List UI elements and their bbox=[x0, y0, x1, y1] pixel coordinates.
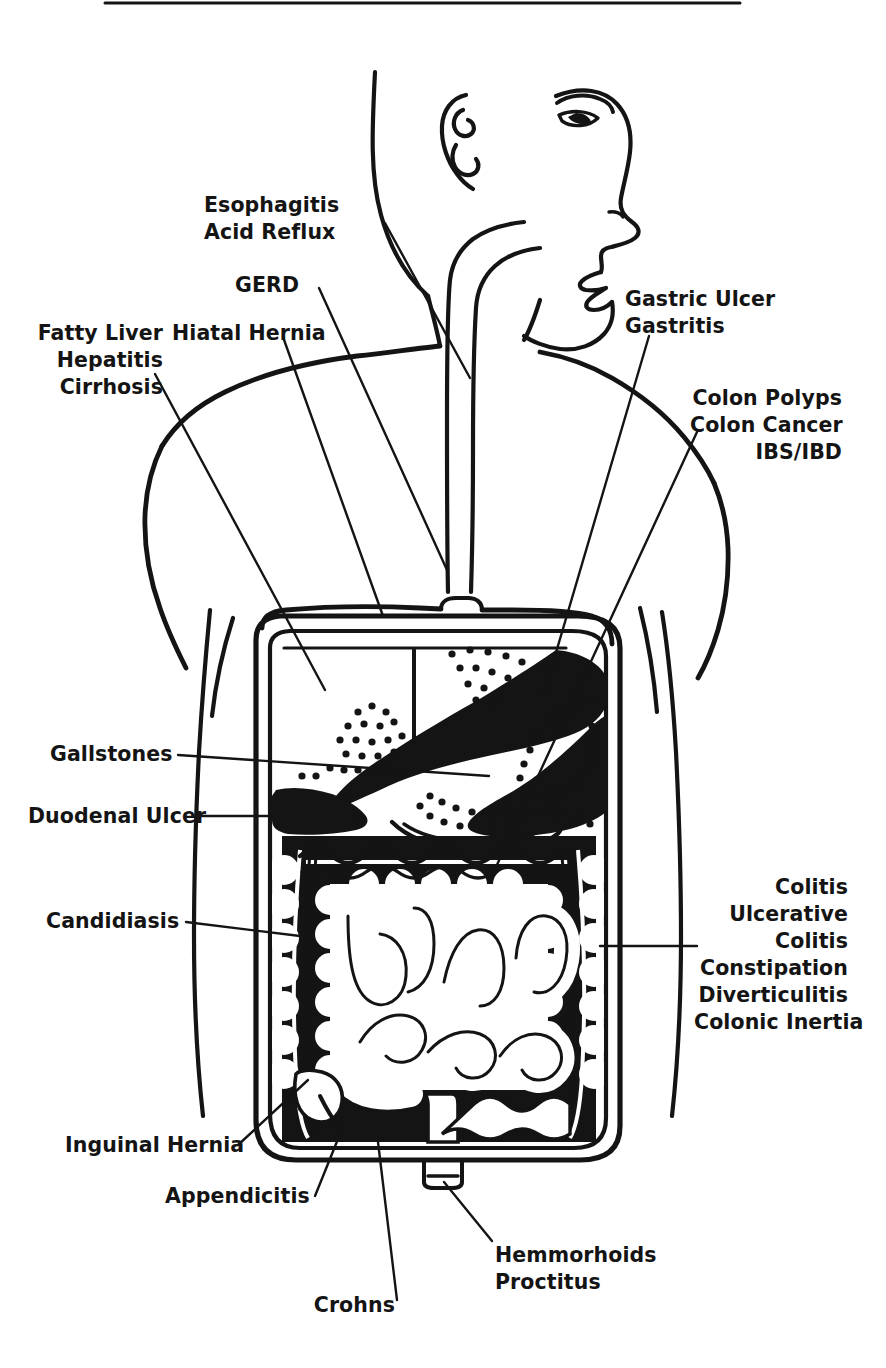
right-arm bbox=[698, 483, 728, 678]
neck-front bbox=[524, 300, 540, 340]
head-profile bbox=[373, 72, 428, 296]
label-duodenal-ulcer: Duodenal Ulcer bbox=[28, 803, 193, 830]
figure-canvas: Esophagitis Acid Reflux GERD Fatty Liver… bbox=[0, 0, 886, 1368]
nostril bbox=[609, 212, 623, 217]
lips bbox=[580, 272, 612, 310]
label-colitis-group: Colitis Ulcerative Colitis Constipation … bbox=[694, 874, 848, 1036]
label-crohns: Crohns bbox=[305, 1292, 395, 1319]
esophagus-hiatus bbox=[441, 598, 482, 610]
sigmoid-colon bbox=[426, 1094, 458, 1142]
label-appendicitis: Appendicitis bbox=[165, 1183, 305, 1210]
label-gastric-ulcer-gastritis: Gastric Ulcer Gastritis bbox=[625, 286, 775, 340]
leader-hiatal-hernia bbox=[283, 337, 383, 616]
label-hemmorhoids-proctitus: Hemmorhoids Proctitus bbox=[495, 1242, 657, 1296]
leader-hemmorhoids bbox=[444, 1182, 492, 1241]
leader-appendicitis bbox=[315, 1134, 340, 1196]
right-shoulder bbox=[540, 352, 714, 483]
left-arm bbox=[145, 446, 186, 668]
left-shoulder bbox=[162, 346, 440, 446]
left-arm-lower bbox=[194, 610, 210, 1116]
leader-fatty-liver bbox=[155, 374, 325, 690]
label-hiatal-hernia: Hiatal Hernia bbox=[172, 320, 326, 347]
label-colon-polyps-colon-cancer-ibs-ibd: Colon Polyps Colon Cancer IBS/IBD bbox=[690, 385, 842, 466]
leader-gerd bbox=[319, 288, 447, 570]
ear-lobe bbox=[452, 145, 478, 175]
label-inguinal-hernia: Inguinal Hernia bbox=[65, 1132, 230, 1159]
esophagus-right-wall bbox=[471, 248, 540, 592]
leader-crohns bbox=[378, 1142, 397, 1300]
rectum bbox=[424, 1160, 462, 1188]
label-esophagitis-acid-reflux: Esophagitis Acid Reflux bbox=[204, 192, 339, 246]
anatomy-illustration bbox=[0, 0, 886, 1368]
left-arm-inner bbox=[212, 618, 233, 716]
label-fatty-liver-hepatitis-cirrhosis: Fatty Liver Hepatitis Cirrhosis bbox=[33, 320, 163, 401]
label-gerd: GERD bbox=[235, 272, 299, 299]
leader-esophagitis bbox=[385, 223, 470, 378]
label-gallstones: Gallstones bbox=[50, 741, 170, 768]
ear-inner bbox=[454, 110, 474, 136]
right-arm-lower bbox=[662, 612, 681, 1116]
label-candidiasis: Candidiasis bbox=[46, 908, 176, 935]
eyebrow bbox=[557, 96, 613, 112]
right-arm-inner bbox=[640, 608, 657, 712]
